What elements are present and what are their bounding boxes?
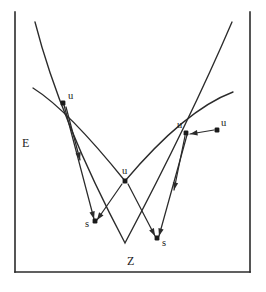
y-axis-label: E [22, 137, 29, 149]
arrow-u-right-to-s-right-head [158, 228, 163, 236]
point-label-u-right-inner: u [177, 120, 182, 131]
arrow-u-middle-to-s-right-head [149, 228, 155, 236]
arrow-u-left-to-s-left-head [89, 211, 94, 219]
state-dot-u-left [61, 101, 66, 106]
state-dot-u-middle [123, 179, 128, 184]
point-label-u-middle: u [122, 166, 127, 177]
state-dot-s-left [93, 219, 98, 224]
energy-diagram-figure: E Z u u u u s s [0, 0, 266, 292]
point-label-s-right: s [162, 238, 166, 249]
arrow-u-right-outer-to-inner-head [190, 130, 198, 135]
state-dot-u-right-inner [184, 131, 189, 136]
point-label-u-left: u [68, 91, 73, 102]
arrow-u-left-down-inner [66, 107, 80, 160]
point-label-s-left: s [85, 219, 89, 230]
state-dot-u-right-outer [215, 128, 220, 133]
arrow-u-middle-to-s-left-head [97, 212, 103, 220]
diagram-canvas [0, 0, 266, 292]
arrow-u-left-to-s-left [64, 105, 94, 219]
x-axis-label: Z [127, 255, 134, 267]
point-label-u-right-outer: u [221, 118, 226, 129]
state-dot-s-right [155, 236, 160, 241]
